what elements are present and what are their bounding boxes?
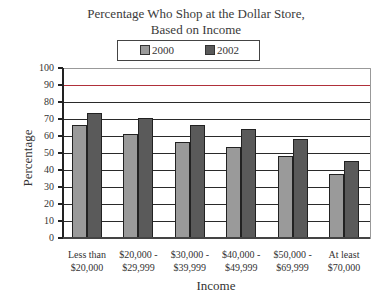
bar-2002-5 bbox=[344, 161, 359, 239]
y-tick-label-50: 50 bbox=[30, 148, 54, 158]
bar-2000-4 bbox=[278, 156, 293, 239]
y-tick-60 bbox=[58, 135, 63, 137]
y-tick-90 bbox=[58, 84, 63, 86]
y-tick-100 bbox=[58, 67, 63, 69]
bar-2000-5 bbox=[329, 174, 344, 239]
x-axis bbox=[58, 237, 370, 239]
legend-item-2002: 2002 bbox=[205, 43, 239, 57]
bar-2000-0 bbox=[72, 125, 87, 239]
bar-2000-2 bbox=[175, 142, 190, 239]
legend-label-2000: 2000 bbox=[152, 44, 174, 56]
y-tick-label-80: 80 bbox=[30, 97, 54, 107]
gridline-40 bbox=[63, 170, 370, 171]
bar-2002-3 bbox=[241, 129, 256, 240]
x-tick-label-5: At least$70,000 bbox=[314, 248, 374, 274]
y-tick-label-10: 10 bbox=[30, 216, 54, 226]
legend-label-2002: 2002 bbox=[217, 44, 239, 56]
gridline-30 bbox=[63, 187, 370, 188]
y-tick-label-20: 20 bbox=[30, 199, 54, 209]
y-tick-30 bbox=[58, 186, 63, 188]
y-tick-80 bbox=[58, 101, 63, 103]
gridline-100 bbox=[63, 68, 370, 69]
y-tick-50 bbox=[58, 152, 63, 154]
y-tick-40 bbox=[58, 169, 63, 171]
chart-title-line-2: Based on Income bbox=[0, 22, 392, 38]
plot-area bbox=[63, 68, 371, 239]
y-tick-label-40: 40 bbox=[30, 165, 54, 175]
y-tick-70 bbox=[58, 118, 63, 120]
y-tick-label-30: 30 bbox=[30, 182, 54, 192]
y-tick-0 bbox=[58, 237, 63, 239]
x-axis-title: Income bbox=[0, 278, 392, 294]
legend-item-2000: 2000 bbox=[140, 43, 174, 57]
y-tick-label-90: 90 bbox=[30, 80, 54, 90]
legend: 2000 2002 bbox=[117, 40, 260, 61]
gridline-80 bbox=[63, 102, 370, 103]
y-tick-label-0: 0 bbox=[30, 233, 54, 243]
legend-swatch-2002 bbox=[205, 45, 215, 55]
legend-swatch-2000 bbox=[140, 45, 150, 55]
gridline-90 bbox=[63, 85, 370, 86]
gridline-60 bbox=[63, 136, 370, 137]
bar-2002-0 bbox=[87, 113, 102, 239]
y-tick-20 bbox=[58, 203, 63, 205]
chart-title-line-1: Percentage Who Shop at the Dollar Store, bbox=[0, 6, 392, 22]
y-tick-label-60: 60 bbox=[30, 131, 54, 141]
y-tick-label-100: 100 bbox=[30, 63, 54, 73]
y-axis bbox=[62, 68, 64, 239]
bar-2002-2 bbox=[190, 125, 205, 239]
bar-2002-1 bbox=[138, 118, 153, 239]
bar-2002-4 bbox=[293, 139, 308, 239]
gridline-70 bbox=[63, 119, 370, 120]
bar-2000-3 bbox=[226, 147, 241, 239]
gridline-20 bbox=[63, 204, 370, 205]
gridline-50 bbox=[63, 153, 370, 154]
y-tick-10 bbox=[58, 220, 63, 222]
bar-2000-1 bbox=[123, 134, 138, 239]
gridline-10 bbox=[63, 221, 370, 222]
y-tick-label-70: 70 bbox=[30, 114, 54, 124]
